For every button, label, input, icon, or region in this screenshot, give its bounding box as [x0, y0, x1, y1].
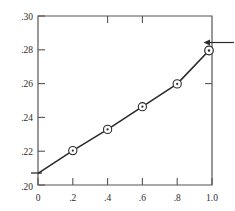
annotation-arrow-icon	[204, 40, 235, 46]
x-tick-labels: 0 .2 .4 .6 .8 1.0	[36, 193, 219, 203]
y-tick-label-5: .20	[21, 182, 33, 192]
y-tick-label-0: .30	[21, 12, 33, 22]
axis-box	[38, 16, 212, 185]
axes-frame	[38, 16, 212, 185]
data-line-series-0	[38, 51, 209, 174]
plot-canvas: .30 .28 .26 .24 .22 .20 0 .2 .4 .6 .8 1.…	[0, 0, 235, 211]
data-point-markers	[69, 46, 214, 155]
data-point-marker-highlighted	[205, 46, 214, 55]
x-tick-label-3: .6	[139, 193, 146, 203]
x-axis-ticks-top	[108, 16, 143, 23]
chart-figure: .30 .28 .26 .24 .22 .20 0 .2 .4 .6 .8 1.…	[0, 0, 235, 211]
y-tick-label-2: .26	[21, 79, 33, 89]
data-point-marker	[104, 125, 112, 133]
y-axis-ticks	[38, 16, 45, 185]
y-tick-label-1: .28	[21, 45, 33, 55]
data-point-marker	[69, 147, 77, 155]
y-tick-labels: .30 .28 .26 .24 .22 .20	[21, 12, 33, 193]
y-tick-label-4: .22	[21, 147, 33, 157]
x-tick-label-0: 0	[36, 193, 41, 203]
x-tick-label-5: 1.0	[206, 193, 218, 203]
x-tick-label-4: .8	[174, 193, 181, 203]
y-tick-label-3: .24	[21, 113, 33, 123]
x-tick-label-1: .2	[69, 193, 76, 203]
x-tick-label-2: .4	[104, 193, 111, 203]
data-point-marker	[173, 80, 181, 88]
data-point-marker	[138, 103, 146, 111]
x-axis-ticks	[38, 178, 212, 185]
